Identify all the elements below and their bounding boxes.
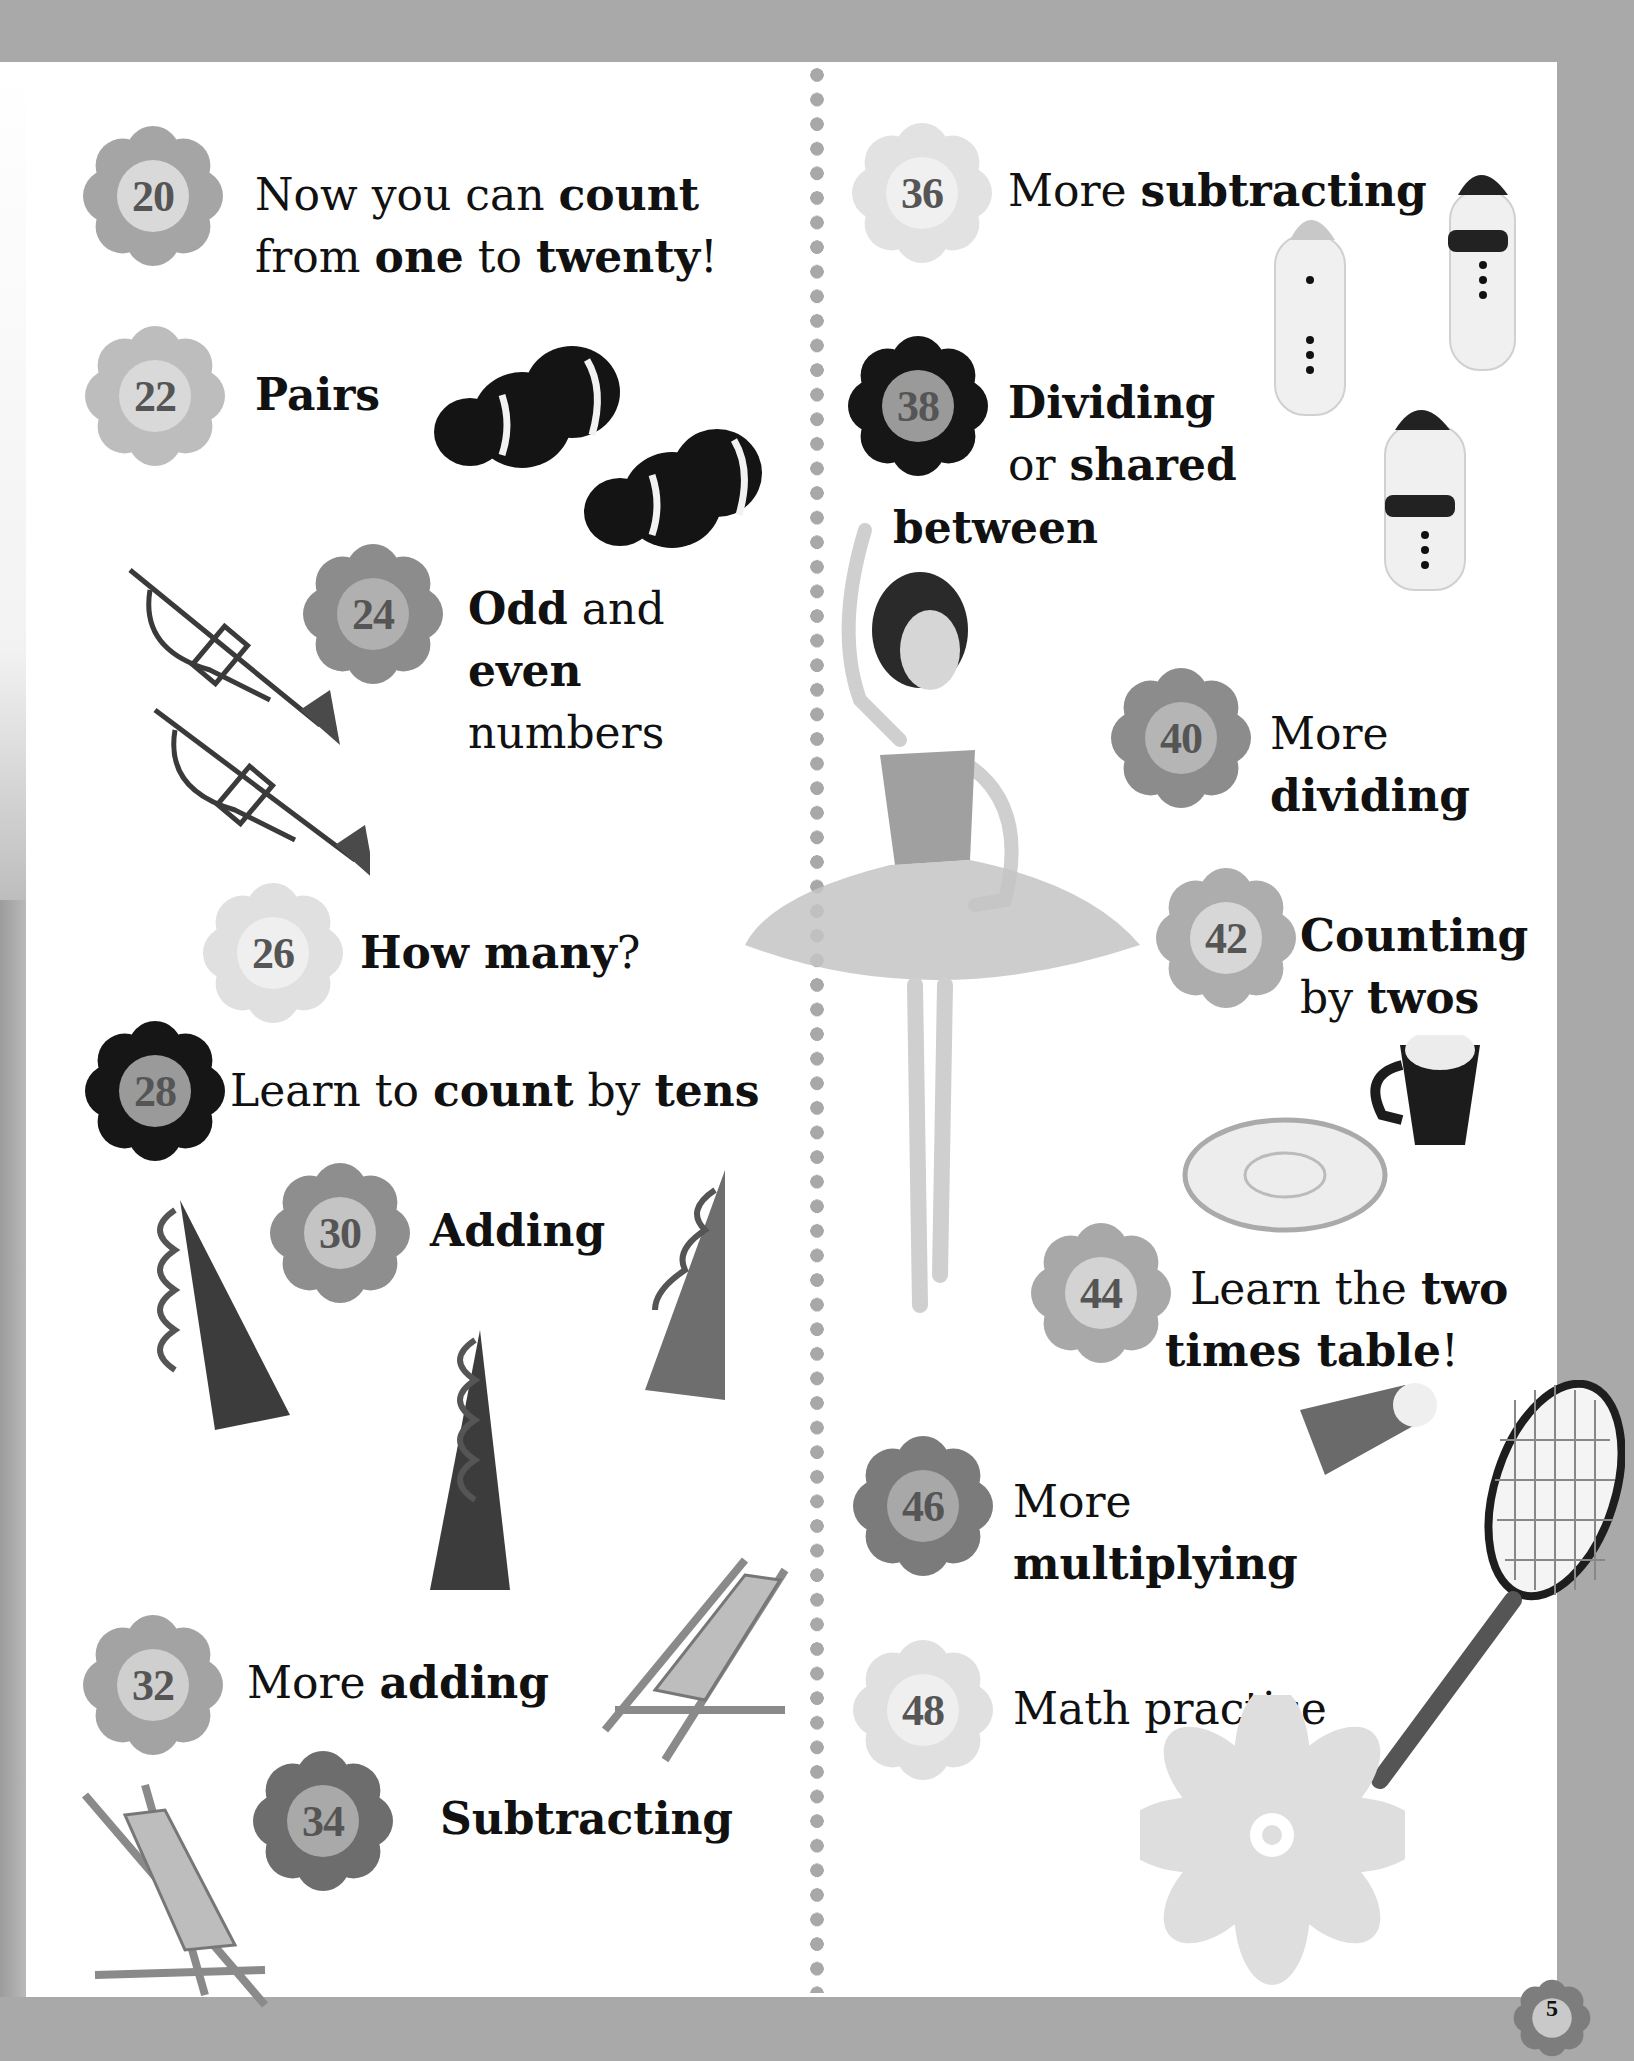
entry-line: More xyxy=(1270,703,1470,765)
page-badge-48[interactable]: 48 xyxy=(850,1637,996,1783)
page-badge-28[interactable]: 28 xyxy=(82,1018,228,1164)
toc-entry-34[interactable]: Subtracting xyxy=(440,1788,733,1850)
toc-entry-46[interactable]: More multiplying xyxy=(1013,1471,1298,1595)
toc-entry-20[interactable]: Now you can count from one to twenty! xyxy=(255,164,718,288)
entry-line: Dividing xyxy=(1008,372,1237,434)
clownfish-icon xyxy=(412,340,762,550)
page-badge-26[interactable]: 26 xyxy=(200,880,346,1026)
entry-line: Now you can count xyxy=(255,164,718,226)
deck-chair-icon xyxy=(595,1550,795,1770)
toc-entry-32[interactable]: More adding xyxy=(247,1652,549,1714)
toc-entry-42[interactable]: Counting by twos xyxy=(1300,905,1528,1029)
deck-chair-icon xyxy=(75,1775,285,2015)
entry-line: More xyxy=(1013,1471,1298,1533)
toc-entry-44[interactable]: Learn the two xyxy=(1190,1258,1508,1320)
toc-entry-22[interactable]: Pairs xyxy=(255,364,380,426)
entry-line: by twos xyxy=(1300,967,1528,1029)
entry-line: Counting xyxy=(1300,905,1528,967)
page-badge-22[interactable]: 22 xyxy=(82,323,228,469)
toc-entry-26[interactable]: How many? xyxy=(360,922,640,984)
entry-line: from one to twenty! xyxy=(255,226,718,288)
page-badge-46[interactable]: 46 xyxy=(850,1433,996,1579)
page-badge-40[interactable]: 40 xyxy=(1108,665,1254,811)
page-badge-36[interactable]: 36 xyxy=(849,120,995,266)
decorative-daisy-icon xyxy=(1140,1695,1405,2035)
page-badge-38[interactable]: 38 xyxy=(845,333,991,479)
page-badge-20[interactable]: 20 xyxy=(80,123,226,269)
toc-entry-44-line2: times table! xyxy=(1165,1320,1459,1382)
page-badge-42[interactable]: 42 xyxy=(1153,865,1299,1011)
page-number-badge: 5 xyxy=(1512,1978,1592,2058)
toc-entry-28[interactable]: Learn to count by tens xyxy=(230,1060,760,1122)
snowman-icon xyxy=(1265,165,1535,595)
entry-line: even xyxy=(468,640,665,702)
toc-entry-38[interactable]: Dividing or shared xyxy=(1008,372,1237,496)
party-hat-icon xyxy=(140,1170,760,1590)
teacup-and-saucer-icon xyxy=(1180,1035,1530,1235)
page-badge-44[interactable]: 44 xyxy=(1028,1220,1174,1366)
entry-line: numbers xyxy=(468,702,665,764)
entry-line: or shared xyxy=(1008,434,1237,496)
toc-entry-40[interactable]: More dividing xyxy=(1270,703,1470,827)
page-badge-32[interactable]: 32 xyxy=(80,1612,226,1758)
trumpet-icon xyxy=(120,560,370,880)
entry-line: Odd and xyxy=(468,578,665,640)
entry-line: dividing xyxy=(1270,765,1470,827)
page-edge-shadow xyxy=(0,62,26,902)
toc-entry-24[interactable]: Odd and even numbers xyxy=(468,578,665,764)
page-edge-shadow xyxy=(0,900,26,1997)
entry-line: multiplying xyxy=(1013,1533,1298,1595)
ballerina-doll-image xyxy=(730,515,1150,1335)
